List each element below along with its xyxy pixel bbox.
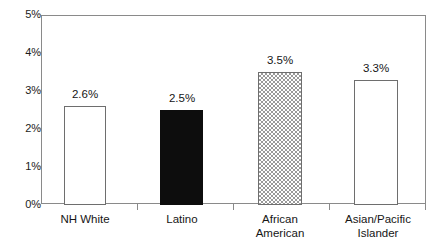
- x-axis-label-asian-pacific-islander: Asian/Pacific Islander: [331, 212, 425, 240]
- y-axis-tick-mark-4: [36, 52, 41, 53]
- x-axis-tick-mark-1: [137, 204, 138, 210]
- value-label-african-american: 3.5%: [250, 54, 310, 66]
- value-label-asian-pacific-islander: 3.3%: [346, 62, 406, 74]
- y-axis-tick-2: 2%: [0, 123, 41, 134]
- y-axis-tick-5: 5%: [0, 9, 41, 20]
- y-axis-tick-1: 1%: [0, 161, 41, 172]
- x-axis-tick-mark-3: [329, 204, 330, 210]
- x-axis-tick-mark-4: [425, 204, 426, 210]
- y-axis-tick-mark-5: [36, 14, 41, 15]
- y-axis-tick-3: 3%: [0, 85, 41, 96]
- value-label-latino: 2.5%: [152, 92, 212, 104]
- bar-chart: 5% 4% 3% 2% 1% 0% 2.6% 2.5% 3.5% 3.3% NH…: [0, 0, 436, 252]
- bar-nh-white[interactable]: [64, 106, 106, 205]
- y-axis-tick-4: 4%: [0, 47, 41, 58]
- x-axis-tick-mark-2: [233, 204, 234, 210]
- x-axis-label-nh-white: NH White: [45, 212, 125, 226]
- y-axis-tick-mark-1: [36, 166, 41, 167]
- y-axis-tick-mark-2: [36, 128, 41, 129]
- y-axis-tick-mark-0: [36, 204, 41, 205]
- x-axis-label-african-american: African American: [240, 212, 320, 240]
- value-label-nh-white: 2.6%: [55, 88, 115, 100]
- bar-latino[interactable]: [160, 110, 203, 205]
- bar-asian-pacific-islander[interactable]: [354, 80, 398, 205]
- y-axis-tick-0: 0%: [0, 199, 41, 210]
- bar-african-american[interactable]: [258, 72, 302, 205]
- y-axis-tick-mark-3: [36, 90, 41, 91]
- x-axis-label-latino: Latino: [142, 212, 222, 226]
